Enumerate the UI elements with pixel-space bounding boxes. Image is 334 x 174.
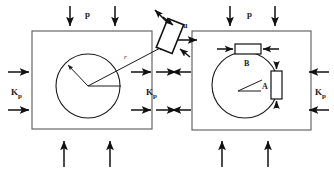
label-displacement-u: u xyxy=(183,21,188,30)
left-radius-arrow xyxy=(68,65,88,86)
rotated-stress-element xyxy=(156,18,183,53)
label-kp-right-outer: K xyxy=(315,87,322,97)
engineering-diagram: p p K p K p K p r u B A xyxy=(0,0,334,174)
label-pressure-top-left: p xyxy=(85,9,90,19)
label-kp-left-outer-subscript: p xyxy=(18,92,22,100)
label-element-b: B xyxy=(244,59,250,68)
element-b-box xyxy=(235,44,261,54)
label-kp-left-outer: K xyxy=(11,87,18,97)
label-kp-left-inner-subscript: p xyxy=(153,92,157,100)
label-kp-right-outer-subscript: p xyxy=(322,92,326,100)
rotated-element-arrow-lowright xyxy=(180,49,190,57)
rotated-element-arrow-upleft xyxy=(155,10,167,22)
element-a-box xyxy=(271,71,282,99)
right-panel-group xyxy=(192,31,311,130)
label-kp-left-inner: K xyxy=(146,87,153,97)
label-radius-r: r xyxy=(124,53,127,61)
label-pressure-top-right: p xyxy=(247,9,252,19)
bottom-pressure-arrows xyxy=(64,141,268,167)
figure-canvas: p p K p K p K p r u B A xyxy=(0,0,334,174)
left-soil-boundary-square xyxy=(32,31,152,129)
rotated-stress-element-group xyxy=(156,18,183,53)
label-element-a: A xyxy=(262,82,268,91)
left-panel-group xyxy=(32,31,164,129)
radius-leader-line xyxy=(88,46,164,86)
angle-marker xyxy=(238,80,262,91)
